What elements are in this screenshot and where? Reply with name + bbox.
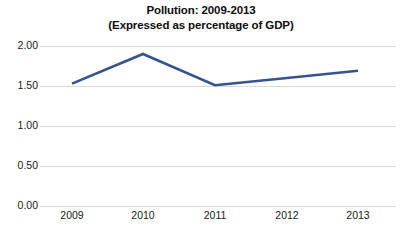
chart-container: Pollution: 2009-2013 (Expressed as perce… <box>0 0 402 239</box>
gridline-0-00 <box>40 206 396 207</box>
series-line-pollution <box>40 46 396 206</box>
x-tick-label-2012: 2012 <box>257 209 317 222</box>
chart-title: Pollution: 2009-2013 (Expressed as perce… <box>0 3 402 33</box>
x-tick-label-2010: 2010 <box>113 209 173 222</box>
y-tick-label-1-00: 1.00 <box>4 120 38 131</box>
x-tick-label-2009: 2009 <box>42 209 102 222</box>
x-tick-label-2011: 2011 <box>185 209 245 222</box>
y-axis: 2.00 1.50 1.00 0.50 0.00 <box>0 0 38 239</box>
chart-title-line-1: Pollution: 2009-2013 <box>146 4 255 16</box>
y-tick-label-1-50: 1.50 <box>4 80 38 91</box>
y-tick-label-0-50: 0.50 <box>4 160 38 171</box>
chart-subtitle: (Expressed as percentage of GDP) <box>0 18 402 33</box>
y-tick-label-0-00: 0.00 <box>4 200 38 211</box>
x-axis: 2009 2010 2011 2012 2013 <box>40 209 396 229</box>
x-tick-label-2013: 2013 <box>328 209 388 222</box>
y-tick-label-2-00: 2.00 <box>4 40 38 51</box>
plot-area <box>40 46 396 206</box>
